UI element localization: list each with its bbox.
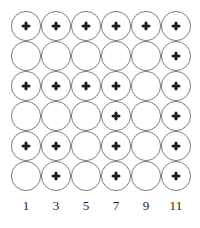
grid-circle <box>131 131 160 160</box>
grid-circle <box>11 161 40 190</box>
grid-circle <box>11 41 40 70</box>
x-axis-label-0: 1 <box>11 197 41 217</box>
grid-circle <box>41 41 70 70</box>
x-axis-label-4: 9 <box>131 197 161 217</box>
grid-circle <box>131 101 160 130</box>
x-axis-label-3: 7 <box>101 197 131 217</box>
grid-circle <box>101 41 130 70</box>
x-axis-label-2: 5 <box>71 197 101 217</box>
x-axis-label-1: 3 <box>41 197 71 217</box>
grid-circle <box>71 131 100 160</box>
grid-circle <box>71 41 100 70</box>
grid-circle <box>131 71 160 100</box>
grid-circle <box>71 101 100 130</box>
circle-grid-figure: 1 3 5 7 9 11 <box>0 0 200 228</box>
grid-circle <box>41 101 70 130</box>
x-axis-label-5: 11 <box>161 197 191 217</box>
circle-grid-canvas <box>0 0 200 228</box>
grid-circle <box>131 41 160 70</box>
grid-circle <box>131 161 160 190</box>
grid-circle <box>11 101 40 130</box>
grid-circle <box>71 161 100 190</box>
x-axis-label-row: 1 3 5 7 9 11 <box>11 197 191 217</box>
